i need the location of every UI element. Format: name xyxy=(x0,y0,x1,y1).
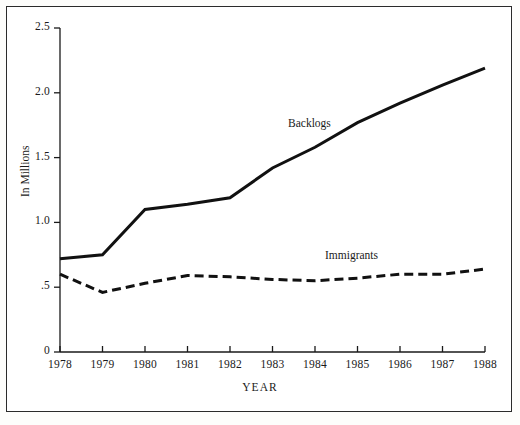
series-label-immigrants: Immigrants xyxy=(325,249,378,261)
y-tick-label: 2.5 xyxy=(35,20,50,32)
series-line-backlogs xyxy=(60,68,485,259)
y-tick-label: .5 xyxy=(41,279,50,291)
series-label-backlogs: Backlogs xyxy=(288,117,331,129)
y-tick-label: 1.0 xyxy=(35,214,50,226)
axis-lines xyxy=(60,28,485,352)
y-tick-label: 0 xyxy=(44,344,50,356)
y-tick-label: 1.5 xyxy=(35,150,50,162)
x-tick-label: 1988 xyxy=(468,358,502,370)
series-line-immigrants xyxy=(60,269,485,292)
x-axis-ticks xyxy=(60,346,485,352)
x-tick-label: 1982 xyxy=(213,358,247,370)
x-tick-label: 1979 xyxy=(86,358,120,370)
y-tick-label: 2.0 xyxy=(35,85,50,97)
x-axis-title: YEAR xyxy=(0,381,520,393)
x-tick-label: 1981 xyxy=(171,358,205,370)
x-tick-label: 1984 xyxy=(298,358,332,370)
x-tick-label: 1980 xyxy=(128,358,162,370)
x-tick-label: 1983 xyxy=(256,358,290,370)
chart-figure: In Millions YEAR 0.51.01.52.02.5 1978197… xyxy=(0,0,520,425)
x-tick-label: 1978 xyxy=(43,358,77,370)
x-tick-label: 1985 xyxy=(341,358,375,370)
x-tick-label: 1986 xyxy=(383,358,417,370)
y-axis-title: In Millions xyxy=(19,171,31,197)
y-axis-ticks xyxy=(54,28,60,352)
x-tick-label: 1987 xyxy=(426,358,460,370)
data-series-group xyxy=(60,68,485,292)
